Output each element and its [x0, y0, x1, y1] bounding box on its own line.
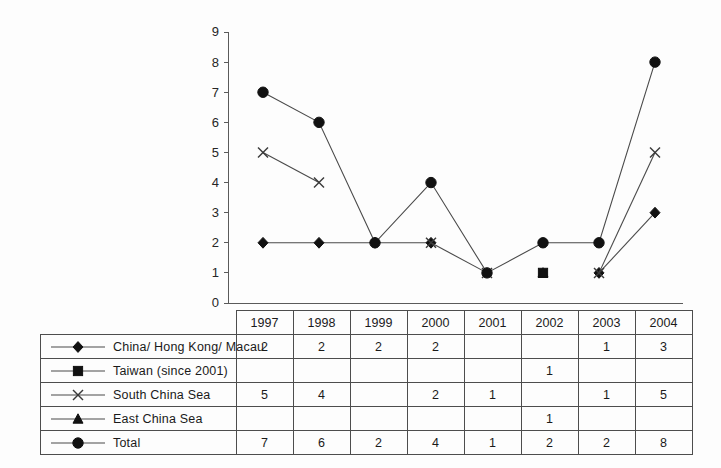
- legend-entry: South China Sea: [41, 383, 236, 406]
- value-cell-2004: 8: [635, 431, 692, 455]
- legend-marker-square: [49, 363, 107, 379]
- value-cell-1998: [293, 359, 350, 383]
- legend-label: South China Sea: [113, 388, 211, 402]
- value-cell-2000: 4: [407, 431, 464, 455]
- value-cell-2000: [407, 359, 464, 383]
- series-x: [258, 147, 660, 277]
- value-cell-2003: 1: [578, 383, 635, 407]
- column-header-2000: 2000: [407, 311, 464, 335]
- legend-cell: Taiwan (since 2001): [41, 359, 237, 383]
- y-axis-tick-label: 2: [212, 235, 219, 250]
- column-header-2001: 2001: [464, 311, 521, 335]
- header-row: 19971998199920002001200220032004: [41, 311, 693, 335]
- y-axis-tick-label: 3: [212, 205, 219, 220]
- value-cell-2001: [464, 407, 521, 431]
- value-cell-2002: 1: [521, 407, 578, 431]
- value-cell-1997: 5: [236, 383, 293, 407]
- column-header-2004: 2004: [635, 311, 692, 335]
- table-body: China/ Hong Kong/ Macau222213Taiwan (sin…: [41, 335, 693, 455]
- legend-marker-diamond: [49, 339, 107, 355]
- legend-cell: East China Sea: [41, 407, 237, 431]
- y-axis-tick-label: 6: [212, 115, 219, 130]
- y-axis-tick-label: 1: [212, 265, 219, 280]
- column-header-2003: 2003: [578, 311, 635, 335]
- value-cell-1999: [350, 407, 407, 431]
- legend-cell: Total: [41, 431, 237, 455]
- value-cell-2000: 2: [407, 335, 464, 359]
- data-point-marker: [314, 117, 324, 127]
- value-cell-2001: [464, 359, 521, 383]
- series-line: [599, 152, 655, 272]
- value-cell-2002: [521, 335, 578, 359]
- table-row: Taiwan (since 2001)1: [41, 359, 693, 383]
- value-cell-1997: [236, 359, 293, 383]
- data-point-marker: [73, 341, 83, 352]
- value-cell-2004: [635, 407, 692, 431]
- value-cell-1999: [350, 359, 407, 383]
- data-point-marker: [650, 57, 660, 67]
- y-axis-tick-label: 9: [212, 24, 219, 39]
- legend-label: Taiwan (since 2001): [113, 364, 228, 378]
- value-cell-1998: 6: [293, 431, 350, 455]
- value-cell-2002: 1: [521, 359, 578, 383]
- data-point-marker: [594, 238, 604, 248]
- series-line: [599, 213, 655, 273]
- y-axis-tick-label: 8: [212, 55, 219, 70]
- column-header-1998: 1998: [293, 311, 350, 335]
- value-cell-1997: 7: [236, 431, 293, 455]
- value-cell-2000: 2: [407, 383, 464, 407]
- data-table: 19971998199920002001200220032004 China/ …: [40, 310, 693, 455]
- y-axis-tick-label: 4: [212, 175, 219, 190]
- table-row: China/ Hong Kong/ Macau222213: [41, 335, 693, 359]
- legend-label: Total: [113, 436, 140, 450]
- data-point-marker: [73, 366, 82, 375]
- table-row: Total76241228: [41, 431, 693, 455]
- value-cell-2003: 2: [578, 431, 635, 455]
- data-point-marker: [73, 437, 83, 447]
- series-line: [263, 152, 319, 182]
- legend-marker-circle: [49, 435, 107, 451]
- y-axis-tick-label: 5: [212, 145, 219, 160]
- y-axis: 0123456789: [212, 24, 228, 310]
- y-axis-tick-label: 7: [212, 85, 219, 100]
- line-chart-svg: 0123456789: [0, 0, 721, 312]
- data-point-marker: [314, 178, 324, 188]
- value-cell-2000: [407, 407, 464, 431]
- data-point-marker: [370, 238, 380, 248]
- legend-header-cell: [41, 311, 237, 335]
- plot-area: 0123456789: [0, 0, 721, 312]
- legend-label: East China Sea: [113, 412, 203, 426]
- value-cell-2001: 1: [464, 383, 521, 407]
- column-header-1997: 1997: [236, 311, 293, 335]
- value-cell-2001: 1: [464, 431, 521, 455]
- data-point-marker: [258, 237, 268, 248]
- legend-cell: South China Sea: [41, 383, 237, 407]
- table-row: South China Sea542115: [41, 383, 693, 407]
- value-cell-2001: [464, 335, 521, 359]
- data-point-marker: [314, 237, 324, 248]
- column-header-1999: 1999: [350, 311, 407, 335]
- legend-entry: Taiwan (since 2001): [41, 359, 236, 382]
- value-cell-1998: 2: [293, 335, 350, 359]
- data-point-marker: [258, 87, 268, 97]
- legend-marker-triangle: [49, 411, 107, 427]
- data-point-marker: [258, 147, 268, 157]
- data-point-marker: [650, 147, 660, 157]
- value-cell-1998: [293, 407, 350, 431]
- value-cell-2004: 5: [635, 383, 692, 407]
- data-point-marker: [482, 268, 492, 278]
- value-cell-2003: [578, 359, 635, 383]
- legend-label: China/ Hong Kong/ Macau: [113, 340, 264, 354]
- value-cell-2002: [521, 383, 578, 407]
- value-cell-2003: 1: [578, 335, 635, 359]
- value-cell-2002: 2: [521, 431, 578, 455]
- value-cell-1999: 2: [350, 335, 407, 359]
- series-layer: [258, 57, 660, 278]
- column-header-2002: 2002: [521, 311, 578, 335]
- legend-marker-x: [49, 387, 107, 403]
- value-cell-1999: [350, 383, 407, 407]
- legend-entry: East China Sea: [41, 407, 236, 430]
- table-row: East China Sea1: [41, 407, 693, 431]
- value-cell-1997: [236, 407, 293, 431]
- series-line: [431, 243, 487, 273]
